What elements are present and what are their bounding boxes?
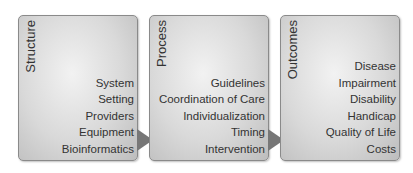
structure-box: Structure System Setting Providers Equip… bbox=[18, 15, 138, 161]
process-item: Intervention bbox=[159, 141, 265, 158]
structure-item: Providers bbox=[62, 108, 134, 125]
structure-title: Structure bbox=[23, 20, 38, 73]
structure-item: Bioinformatics bbox=[62, 141, 134, 158]
outcomes-items: Disease Impairment Disability Handicap Q… bbox=[326, 58, 396, 157]
outcomes-item: Handicap bbox=[326, 108, 396, 125]
structure-item: Equipment bbox=[62, 124, 134, 141]
process-title: Process bbox=[154, 20, 169, 67]
structure-item: Setting bbox=[62, 91, 134, 108]
process-item: Coordination of Care bbox=[159, 91, 265, 108]
process-item: Timing bbox=[159, 124, 265, 141]
process-item: Guidelines bbox=[159, 75, 265, 92]
structure-items: System Setting Providers Equipment Bioin… bbox=[62, 75, 134, 158]
outcomes-item: Impairment bbox=[326, 75, 396, 92]
outcomes-item: Quality of Life bbox=[326, 124, 396, 141]
outcomes-box: Outcomes Disease Impairment Disability H… bbox=[280, 15, 400, 161]
outcomes-item: Disability bbox=[326, 91, 396, 108]
process-items: Guidelines Coordination of Care Individu… bbox=[159, 75, 265, 158]
outcomes-item: Disease bbox=[326, 58, 396, 75]
process-box: Process Guidelines Coordination of Care … bbox=[149, 15, 269, 161]
outcomes-item: Costs bbox=[326, 141, 396, 158]
structure-item: System bbox=[62, 75, 134, 92]
outcomes-title: Outcomes bbox=[285, 20, 300, 79]
process-item: Individualization bbox=[159, 108, 265, 125]
